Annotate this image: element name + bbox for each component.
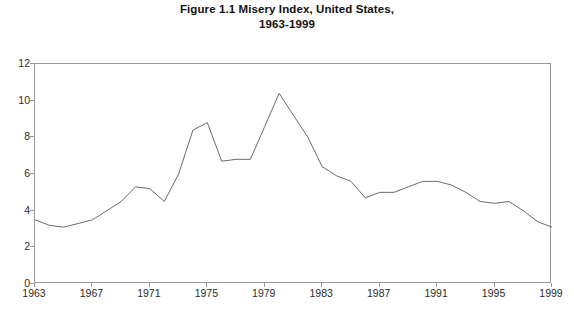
x-tick-mark (34, 283, 35, 287)
x-tick-mark (91, 283, 92, 287)
x-tick-label: 1991 (416, 287, 456, 299)
figure-container: Figure 1.1 Misery Index, United States, … (0, 0, 574, 320)
plot-area (34, 63, 551, 283)
x-tick-label: 1967 (71, 287, 111, 299)
y-tick-label: 12 (0, 58, 30, 68)
x-tick-mark (379, 283, 380, 287)
misery-index-line (35, 93, 552, 227)
x-tick-mark (321, 283, 322, 287)
y-tick-label: 4 (0, 205, 30, 215)
chart-title: Figure 1.1 Misery Index, United States, … (0, 2, 574, 32)
chart-title-line-1: Figure 1.1 Misery Index, United States, (0, 2, 574, 17)
x-tick-mark (149, 283, 150, 287)
x-tick-mark (436, 283, 437, 287)
y-axis: 024681012 (0, 63, 30, 283)
y-tick-label: 2 (0, 241, 30, 251)
x-tick-mark (494, 283, 495, 287)
line-series-svg (35, 64, 552, 284)
x-tick-label: 1999 (531, 287, 571, 299)
y-tick-label: 6 (0, 168, 30, 178)
x-tick-mark (206, 283, 207, 287)
x-tick-label: 1963 (14, 287, 54, 299)
x-tick-label: 1987 (359, 287, 399, 299)
x-tick-label: 1995 (474, 287, 514, 299)
x-tick-mark (551, 283, 552, 287)
x-tick-mark (264, 283, 265, 287)
x-tick-label: 1975 (186, 287, 226, 299)
chart-title-line-2: 1963-1999 (0, 17, 574, 32)
y-tick-label: 10 (0, 95, 30, 105)
x-tick-label: 1983 (301, 287, 341, 299)
x-tick-label: 1979 (244, 287, 284, 299)
y-tick-label: 8 (0, 131, 30, 141)
x-tick-label: 1971 (129, 287, 169, 299)
x-axis: 1963196719711975197919831987199119951999 (34, 287, 551, 305)
